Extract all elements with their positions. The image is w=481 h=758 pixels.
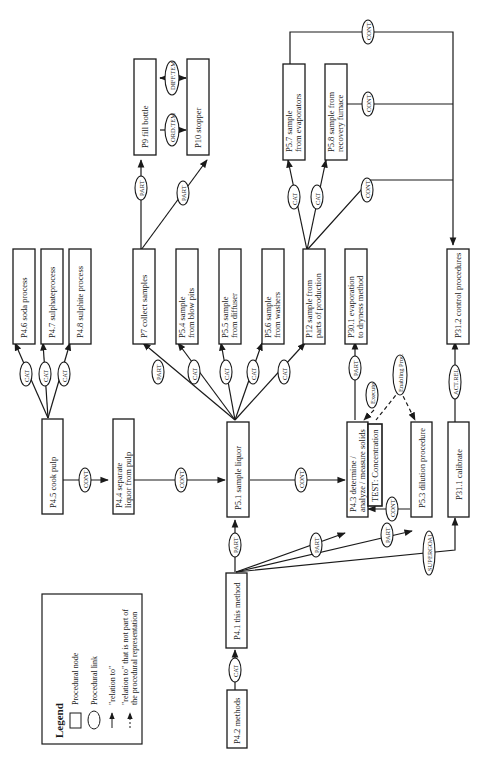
svg-text:from evaporators: from evaporators <box>293 94 303 152</box>
link-diff-tem[interactable]: DIFF.TEM <box>165 61 179 95</box>
node-p4-3[interactable]: P4.3 determine / analyze / measure solid… <box>347 422 368 517</box>
svg-text:"relation to" that is not part: "relation to" that is not part of <box>121 609 130 705</box>
svg-text:to dryness method: to dryness method <box>355 275 365 338</box>
link-cat-p42-p41[interactable]: CAT <box>229 658 241 682</box>
link-enabling-proc[interactable]: Enabling Proc. <box>393 353 407 395</box>
svg-text:P4.7 sulphateprocess: P4.7 sulphateprocess <box>47 267 57 338</box>
node-p4-1[interactable]: P4.1 this method <box>226 573 247 648</box>
svg-text:P4.5 cook pulp: P4.5 cook pulp <box>48 457 58 508</box>
svg-text:CONT: CONT <box>298 470 305 488</box>
link-cont-p44-p51[interactable]: CONT <box>175 468 187 492</box>
link-cat-p54[interactable]: CAT <box>188 360 200 384</box>
svg-text:Enabling Proc.: Enabling Proc. <box>397 353 404 392</box>
svg-text:CAT: CAT <box>223 368 230 380</box>
node-p30-1[interactable]: P30.1 evaporation to dryness method <box>345 249 367 344</box>
node-p10[interactable]: P10 stopper <box>187 59 209 155</box>
svg-text:P9 fill bottle: P9 fill bottle <box>140 105 150 148</box>
link-cont-p57[interactable]: CONT <box>362 20 374 44</box>
svg-text:CONT: CONT <box>364 180 371 198</box>
node-p7[interactable]: P7 collect samples <box>133 249 155 344</box>
svg-text:P4.1 this method: P4.1 this method <box>232 582 242 640</box>
node-p5-1[interactable]: P5.1 sample liquor <box>227 422 249 517</box>
link-part-p43-p301[interactable]: PART <box>349 356 361 380</box>
link-supergoal[interactable]: SUPERGOAL <box>423 531 435 575</box>
node-test-concentration[interactable]: TEST: Concentration <box>368 424 382 506</box>
link-cat-p12[interactable]: CAT <box>278 360 290 384</box>
node-p4-4[interactable]: P4.4 separate liquor from pulp <box>113 419 134 514</box>
svg-text:PART: PART <box>180 185 187 201</box>
svg-text:CONT: CONT <box>365 22 372 40</box>
node-p5-7[interactable]: P5.7 sample from evaporators <box>283 64 305 160</box>
svg-text:PART: PART <box>352 360 359 376</box>
svg-text:SUPERGOAL: SUPERGOAL <box>426 533 433 571</box>
link-execute[interactable]: Execute <box>366 382 378 408</box>
link-cat-p48[interactable]: CAT <box>58 362 70 386</box>
node-p4-2[interactable]: P4.2 methods <box>227 690 247 748</box>
link-part-p41-p53[interactable]: PART <box>381 523 393 547</box>
link-part-p41-p43[interactable]: PART <box>310 533 322 557</box>
node-p4-7[interactable]: P4.7 sulphateprocess <box>41 249 63 344</box>
node-p5-5[interactable]: P5.5 sample from diffuser <box>219 249 241 344</box>
svg-text:P5.3 dilution procedure: P5.3 dilution procedure <box>417 428 427 508</box>
svg-text:PART: PART <box>138 180 145 196</box>
node-p31-1[interactable]: P31.1 calibrate <box>448 422 469 517</box>
link-cat-p47[interactable]: CAT <box>39 362 51 386</box>
link-cont-p58[interactable]: CONT <box>362 92 374 116</box>
link-part-p7-p9[interactable]: PART <box>135 176 147 200</box>
link-cat-p56[interactable]: CAT <box>247 360 259 384</box>
svg-text:CAT: CAT <box>191 368 198 380</box>
svg-text:CAT: CAT <box>250 368 257 380</box>
link-cont-p51-p43[interactable]: CONT <box>295 468 307 492</box>
svg-text:from washers: from washers <box>272 292 282 338</box>
svg-text:recovery furnace: recovery furnace <box>335 94 345 152</box>
link-cat-p57[interactable]: CAT <box>288 185 300 209</box>
svg-text:P5.1 sample liquor: P5.1 sample liquor <box>233 446 243 510</box>
node-p4-5[interactable]: P4.5 cook pulp <box>42 419 63 514</box>
svg-text:Procedural node: Procedural node <box>71 652 80 705</box>
link-cont-p45-p44[interactable]: CONT <box>79 468 91 492</box>
legend-title: Legend <box>53 703 65 738</box>
svg-text:Execute: Execute <box>369 383 376 404</box>
svg-text:PART: PART <box>155 364 162 380</box>
link-part-p51-p7[interactable]: PART <box>152 360 164 384</box>
svg-text:TEST: Concentration: TEST: Concentration <box>370 429 380 502</box>
legend: Legend Procedural node Procedural link "… <box>42 594 142 744</box>
svg-text:PART: PART <box>232 537 239 553</box>
link-ord-tem[interactable]: ORD.TEM <box>165 113 179 146</box>
link-cont-p53-p43[interactable]: CONT <box>386 497 398 521</box>
svg-text:PART: PART <box>313 537 320 553</box>
node-p5-4[interactable]: P5.4 sample from blow pits <box>176 249 198 344</box>
svg-text:CONT: CONT <box>365 94 372 112</box>
link-part-p41-p51[interactable]: PART <box>229 533 241 557</box>
link-cont-p12[interactable]: CONT <box>361 178 373 202</box>
svg-text:P31.2 control procedures: P31.2 control procedures <box>453 253 463 338</box>
node-p4-8[interactable]: P4.8 sulphite process <box>69 249 91 344</box>
svg-text:the procedural representation: the procedural representation <box>130 612 139 705</box>
node-p5-8[interactable]: P5.8 sample from recovery furnace <box>325 64 347 160</box>
link-cat-p58[interactable]: CAT <box>311 185 323 209</box>
link-cat-p46[interactable]: CAT <box>20 362 32 386</box>
svg-text:CAT: CAT <box>42 370 49 382</box>
svg-text:from blow pits: from blow pits <box>186 288 196 338</box>
svg-text:CAT: CAT <box>232 665 239 677</box>
svg-text:liquor from pulp: liquor from pulp <box>123 452 133 508</box>
svg-text:ACT.REL: ACT.REL <box>452 369 459 395</box>
svg-text:CAT: CAT <box>291 193 298 205</box>
link-actrel[interactable]: ACT.REL <box>449 365 461 399</box>
svg-text:P10 stopper: P10 stopper <box>193 107 203 148</box>
svg-text:from diffuser: from diffuser <box>229 293 239 338</box>
svg-text:DIFF.TEM: DIFF.TEM <box>169 61 176 90</box>
node-p4-6[interactable]: P4.6 soda process <box>13 249 35 344</box>
link-part-p7-p10[interactable]: PART <box>177 181 189 205</box>
link-cat-p55[interactable]: CAT <box>220 360 232 384</box>
node-p5-3[interactable]: P5.3 dilution procedure <box>411 422 432 517</box>
node-p12[interactable]: P12 sample from parts of production <box>303 249 325 344</box>
svg-text:CONT: CONT <box>389 499 396 517</box>
svg-text:"relation to": "relation to" <box>108 666 117 705</box>
svg-text:CAT: CAT <box>281 368 288 380</box>
node-p31-2[interactable]: P31.2 control procedures <box>447 249 469 344</box>
node-p9[interactable]: P9 fill bottle <box>134 59 156 155</box>
node-p5-6[interactable]: P5.6 sample from washers <box>262 249 284 344</box>
svg-text:P31.1 calibrate: P31.1 calibrate <box>454 449 464 500</box>
svg-text:P7 collect samples: P7 collect samples <box>139 275 149 338</box>
